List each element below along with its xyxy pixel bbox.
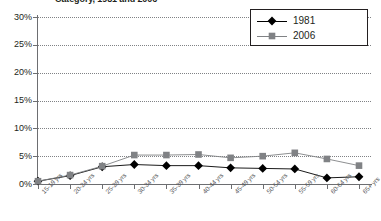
legend-marker-diamond-icon xyxy=(257,15,287,27)
data-point-1981 xyxy=(130,160,139,169)
x-axis-tick xyxy=(199,185,200,189)
x-axis-tick xyxy=(263,185,264,189)
data-point-2006 xyxy=(99,163,106,170)
data-point-2006 xyxy=(324,156,331,163)
data-point-1981 xyxy=(355,172,364,181)
legend-item-1981[interactable]: 1981 xyxy=(257,14,315,28)
x-axis-tick xyxy=(295,185,296,189)
data-point-1981 xyxy=(226,163,235,172)
legend-item-2006[interactable]: 2006 xyxy=(257,29,315,43)
x-axis-tick xyxy=(134,185,135,189)
data-point-1981 xyxy=(258,164,267,173)
y-axis-tick-label: 15% xyxy=(0,96,32,105)
y-axis-tick-label: 5% xyxy=(0,152,32,161)
data-point-1981 xyxy=(194,161,203,170)
data-point-2006 xyxy=(259,153,266,160)
chart-title: Category, 1981 and 2006 xyxy=(55,0,355,5)
y-axis-tick-label: 10% xyxy=(0,124,32,133)
data-point-2006 xyxy=(292,150,299,157)
data-point-2006 xyxy=(35,178,42,185)
legend-label: 2006 xyxy=(293,30,315,42)
x-axis-tick xyxy=(102,185,103,189)
data-point-1981 xyxy=(290,165,299,174)
y-axis-tick-label: 20% xyxy=(0,68,32,77)
y-axis-tick-label: 0% xyxy=(0,180,32,189)
data-point-2006 xyxy=(67,172,74,179)
data-point-2006 xyxy=(163,152,170,159)
x-axis-tick xyxy=(231,185,232,189)
legend-label: 1981 xyxy=(293,15,315,27)
legend-marker-glyph xyxy=(257,15,287,27)
y-axis-tick-label: 30% xyxy=(0,13,32,22)
chart-legend: 19812006 xyxy=(250,9,368,46)
y-axis-tick-label: 25% xyxy=(0,40,32,49)
legend-marker-square-icon xyxy=(257,30,287,42)
legend-marker-glyph xyxy=(257,30,287,42)
data-point-2006 xyxy=(227,155,234,162)
x-axis-tick xyxy=(38,185,39,189)
x-axis-tick xyxy=(70,185,71,189)
data-point-2006 xyxy=(356,162,363,169)
x-axis-tick xyxy=(327,185,328,189)
x-axis-tick xyxy=(166,185,167,189)
data-point-1981 xyxy=(323,173,332,182)
data-point-2006 xyxy=(131,152,138,159)
x-axis-tick xyxy=(359,185,360,189)
data-point-2006 xyxy=(195,151,202,158)
data-point-1981 xyxy=(162,161,171,170)
